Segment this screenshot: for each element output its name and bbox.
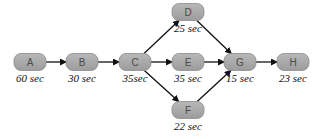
node-b: B30 sec — [66, 54, 98, 84]
duration-label: 22 sec — [174, 120, 202, 132]
node-label: H — [289, 57, 296, 68]
duration-label: 15 sec — [226, 72, 254, 84]
node-label: C — [131, 57, 138, 68]
node-label: F — [185, 105, 191, 116]
node-c: C35sec — [119, 54, 151, 84]
duration-label: 35 sec — [173, 72, 202, 84]
node-label: B — [79, 57, 86, 68]
duration-label: 35sec — [121, 72, 147, 84]
node-g: G15 sec — [224, 54, 256, 84]
node-a: A60 sec — [14, 54, 46, 84]
node-label: D — [184, 7, 191, 18]
node-label: G — [236, 57, 244, 68]
node-h: H23 sec — [277, 54, 309, 84]
node-f: F22 sec — [172, 102, 204, 132]
node-d: D25 sec — [172, 4, 204, 34]
node-e: E35 sec — [172, 54, 204, 84]
node-label: A — [27, 57, 34, 68]
nodes-layer: A60 secB30 secC35secD25 secE35 secF22 se… — [14, 4, 309, 132]
node-label: E — [185, 57, 192, 68]
duration-label: 30 sec — [67, 72, 96, 84]
duration-label: 25 sec — [174, 22, 202, 34]
activity-network-diagram: A60 secB30 secC35secD25 secE35 secF22 se… — [0, 0, 325, 139]
duration-label: 23 sec — [279, 72, 307, 84]
duration-label: 60 sec — [16, 72, 44, 84]
arrow-d-to-g — [197, 21, 231, 54]
